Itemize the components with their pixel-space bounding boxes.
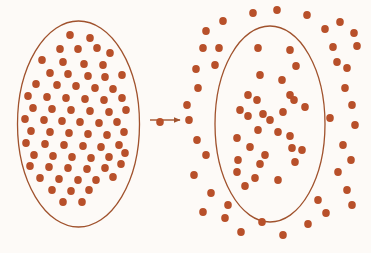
particle-dot [273,6,281,14]
particle-dot [266,116,274,124]
particle-dot [236,106,244,114]
particle-dot [97,143,105,151]
particle-dot [254,44,262,52]
particle-dot [326,114,334,122]
particle-dot [286,46,294,54]
particle-dot [279,231,287,239]
particle-dot [244,112,252,120]
particle-dot [30,151,38,159]
particle-dot [254,126,262,134]
particle-dot [95,119,103,127]
particle-dot [259,110,267,118]
particle-dot [59,58,67,66]
particle-dot [298,146,306,154]
particle-dot [321,25,329,33]
particle-dot [333,58,341,66]
particle-dot [202,27,210,35]
particle-dot [60,141,68,149]
particle-dot [251,174,259,182]
particle-dot [199,44,207,52]
particle-dot [83,165,91,173]
particle-dot [256,160,264,168]
particle-dot [117,160,125,168]
particle-dot [215,44,223,52]
particle-dot [219,17,227,25]
particle-dot [183,101,191,109]
particle-dot [353,42,361,50]
particle-dot [62,94,70,102]
particle-dot [279,108,287,116]
particle-dot [24,92,32,100]
particle-dot [45,163,53,171]
particle-dot [103,131,111,139]
particle-dot [101,164,109,172]
particle-dot [194,84,202,92]
particle-dot [115,141,123,149]
particle-dot [26,162,34,170]
particle-dot [288,144,296,152]
particle-dot [121,149,129,157]
particle-dot [65,129,73,137]
particle-dot [99,61,107,69]
particle-dot [38,56,46,64]
particle-dot [301,103,309,111]
particle-dot [234,156,242,164]
particle-dot [274,128,282,136]
particle-dot [336,18,344,26]
particle-dot [105,108,113,116]
particle-dot [93,44,101,52]
particle-dot [67,187,75,195]
particle-dot [156,118,164,126]
particle-dot [185,116,193,124]
particle-dot [303,11,311,19]
particle-dot [253,96,261,104]
diagram-canvas [0,0,371,253]
particle-dot [244,91,252,99]
particle-dot [81,95,89,103]
particle-dot [249,9,257,17]
particle-dot [314,196,322,204]
particle-dot [48,105,56,113]
particle-dot [86,34,94,42]
particle-dot [84,72,92,80]
particle-dot [21,115,29,123]
particle-dot [105,153,113,161]
particle-dot [64,70,72,78]
particle-dot [341,84,349,92]
diagram-background [0,0,371,253]
particle-dot [55,175,63,183]
particle-dot [246,143,254,151]
particle-dot [85,186,93,194]
particle-dot [237,228,245,236]
particle-dot [339,141,347,149]
particle-dot [199,208,207,216]
particle-dot [351,121,359,129]
particle-dot [291,158,299,166]
particle-dot [120,128,128,136]
particle-dot [46,128,54,136]
particle-dot [202,151,210,159]
particle-dot [49,152,57,160]
particle-dot [190,171,198,179]
particle-dot [72,82,80,90]
particle-dot [100,96,108,104]
particle-dot [74,176,82,184]
particle-dot [118,71,126,79]
particle-dot [79,142,87,150]
particle-dot [286,132,294,140]
particle-dot [290,96,298,104]
particle-dot [224,201,232,209]
particle-dot [274,176,282,184]
particle-dot [87,154,95,162]
particle-dot [258,218,266,226]
particle-dot [84,130,92,138]
particle-dot [40,116,48,124]
particle-dot [36,174,44,182]
particle-dot [68,153,76,161]
particle-dot [118,94,126,102]
particle-dot [46,69,54,77]
particle-dot [113,118,121,126]
particle-dot [322,209,330,217]
particle-dot [59,198,67,206]
particle-dot [343,186,351,194]
